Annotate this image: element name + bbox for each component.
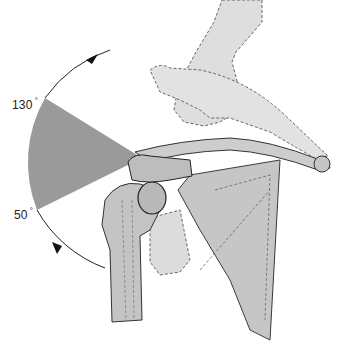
shoulder-rom-diagram — [0, 0, 351, 346]
degree-symbol: ° — [30, 206, 33, 215]
scapula — [178, 160, 280, 340]
angle-lower-value: 50 — [14, 208, 28, 222]
scapula-ghost — [150, 210, 190, 275]
angle-lower-label: 50° — [14, 208, 33, 222]
rotation-arc-lower — [37, 210, 105, 268]
acromion — [128, 155, 192, 182]
angle-upper-value: 130 — [12, 98, 33, 112]
rotation-arc — [45, 50, 110, 98]
arrow-up-lower-icon — [52, 242, 62, 254]
humeral-head — [138, 182, 166, 214]
arrow-up-icon — [86, 54, 98, 64]
degree-symbol: ° — [35, 96, 38, 105]
angle-upper-label: 130° — [12, 98, 38, 112]
